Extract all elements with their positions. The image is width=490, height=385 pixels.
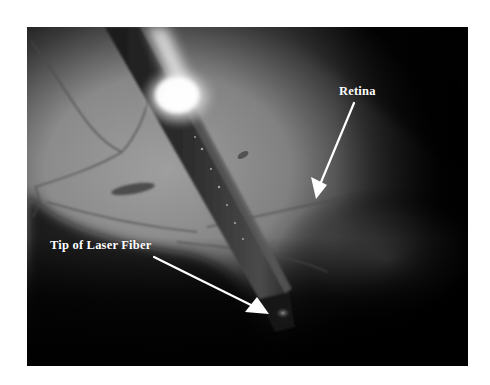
photo-rendering — [27, 27, 468, 366]
fiber-tip-label: Tip of Laser Fiber — [50, 238, 151, 253]
retina-label: Retina — [339, 84, 376, 99]
retina-laser-photo: Retina Tip of Laser Fiber — [27, 27, 468, 366]
